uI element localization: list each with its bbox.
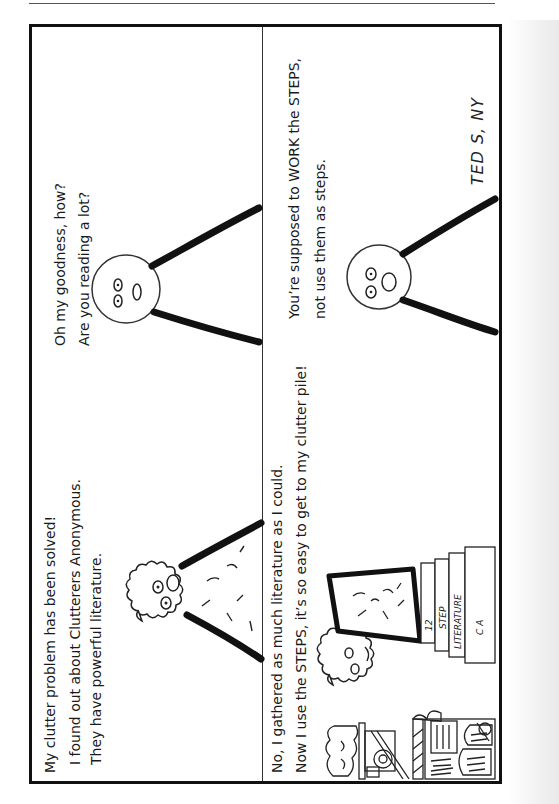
round-headed-character-icon	[263, 27, 499, 404]
round-headed-character-icon	[32, 27, 262, 404]
top-rule	[29, 3, 495, 4]
book-label: STEP	[438, 606, 448, 629]
panel-2: Oh my goodness, how? Are you reading a l…	[32, 27, 262, 404]
panel-3: No, I gathered as much literature as I c…	[263, 404, 499, 781]
curly-haired-character-icon	[317, 569, 420, 685]
clutter-pile-icon	[326, 711, 495, 779]
book-label: C A	[475, 620, 485, 635]
curly-haired-character-icon	[32, 404, 262, 781]
comic-strip: My clutter problem has been solved! I fo…	[29, 24, 502, 784]
page-edge-shadow	[508, 20, 559, 804]
panel-4: You’re supposed to WORK the STEPS, not u…	[263, 27, 499, 404]
book-label: LITERATURE	[453, 594, 463, 649]
artist-signature: TED S, NY	[468, 97, 487, 185]
clutter-pile-scene-icon: 12 STEP LITERATURE C A	[263, 404, 499, 781]
panel-1: My clutter problem has been solved! I fo…	[32, 404, 262, 781]
book-label: 12	[424, 619, 434, 631]
comic-frame: My clutter problem has been solved! I fo…	[29, 24, 502, 784]
